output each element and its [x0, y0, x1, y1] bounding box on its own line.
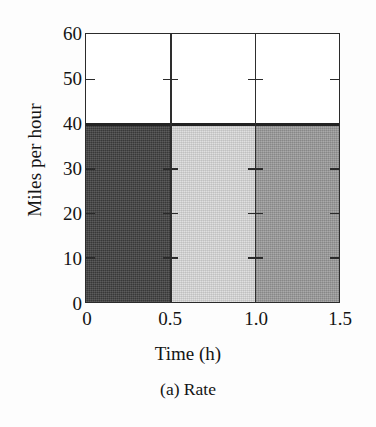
- bar-top-edge: [170, 123, 254, 125]
- y-tick-mark-mid1-20: [163, 213, 178, 215]
- plot-inner-surface: [86, 34, 339, 302]
- y-tick-mark-20: [86, 213, 95, 215]
- y-tick-label-10: 10: [36, 249, 82, 268]
- bar-segment-1: [86, 123, 170, 302]
- y-tick-mark-mid2-50: [248, 79, 263, 81]
- y-tick-mark-mid1-10: [163, 257, 178, 259]
- bar-texture: [255, 123, 339, 302]
- x-tick-label-0-5: 0.5: [140, 309, 200, 328]
- bar-texture: [170, 123, 254, 302]
- y-tick-mark-30: [86, 168, 95, 170]
- rate-chart-figure: Miles per hour 60 50 40 30 20 10 0: [0, 0, 376, 427]
- y-tick-label-30: 30: [36, 159, 82, 178]
- y-tick-mark-right-10: [330, 257, 339, 259]
- x-tick-label-1-5: 1.5: [310, 309, 370, 328]
- y-tick-label-20: 20: [36, 204, 82, 223]
- y-tick-mark-right-20: [330, 213, 339, 215]
- y-tick-mark-mid1-30: [163, 168, 178, 170]
- x-tick-label-0: 0: [57, 309, 117, 328]
- bar-top-edge: [86, 123, 170, 125]
- y-tick-mark-mid2-20: [248, 213, 263, 215]
- y-tick-label-50: 50: [36, 69, 82, 88]
- bar-segment-2: [170, 123, 254, 302]
- y-tick-mark-mid1-50: [163, 79, 178, 81]
- x-axis-tick-labels: 0 0.5 1.0 1.5: [0, 309, 376, 335]
- y-tick-mark-50: [86, 79, 95, 81]
- y-tick-mark-right-30: [330, 168, 339, 170]
- x-axis-title: Time (h): [0, 343, 376, 365]
- x-tick-label-1-0: 1.0: [226, 309, 286, 328]
- bar-top-edge: [255, 123, 339, 125]
- y-tick-label-60: 60: [36, 24, 82, 43]
- y-tick-mark-mid2-30: [248, 168, 263, 170]
- figure-subcaption: (a) Rate: [0, 379, 376, 400]
- y-tick-label-40: 40: [36, 114, 82, 133]
- y-tick-mark-mid2-10: [248, 257, 263, 259]
- y-tick-mark-right-50: [330, 79, 339, 81]
- bar-texture: [86, 123, 170, 302]
- y-tick-mark-10: [86, 257, 95, 259]
- plot-area: [85, 33, 340, 303]
- bar-segment-3: [255, 123, 339, 302]
